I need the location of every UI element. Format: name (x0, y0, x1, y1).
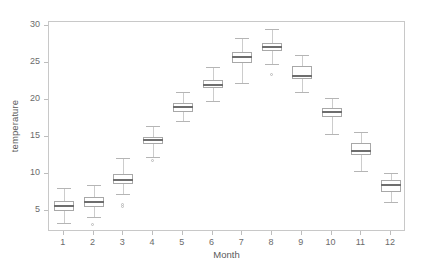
plot-area (49, 22, 404, 230)
plot-frame (48, 21, 405, 231)
y-tick-label: 20 (24, 93, 40, 103)
x-tick-label: 1 (54, 237, 72, 247)
x-tick-label: 12 (381, 237, 399, 247)
figure-caption-area (0, 262, 423, 268)
x-tick-label: 11 (351, 237, 369, 247)
x-tick-mark (271, 231, 272, 235)
x-tick-mark (93, 231, 94, 235)
y-tick-label: 5 (24, 204, 40, 214)
boxplot-upper-cap (384, 173, 398, 174)
y-tick-label: 15 (24, 130, 40, 140)
x-tick-mark (122, 231, 123, 235)
x-tick-label: 2 (84, 237, 102, 247)
x-tick-label: 9 (292, 237, 310, 247)
x-tick-label: 10 (322, 237, 340, 247)
x-tick-mark (63, 231, 64, 235)
x-tick-mark (212, 231, 213, 235)
y-tick-label: 30 (24, 19, 40, 29)
y-axis-label-container: temperature (9, 21, 23, 231)
x-tick-label: 3 (113, 237, 131, 247)
boxplot-lower-cap (384, 202, 398, 203)
x-tick-mark (331, 231, 332, 235)
boxplot-lower-whisker (391, 192, 392, 202)
x-tick-label: 6 (203, 237, 221, 247)
boxplot-median-line (381, 184, 401, 186)
x-axis-label: Month (48, 249, 405, 260)
x-tick-mark (301, 231, 302, 235)
x-tick-label: 8 (262, 237, 280, 247)
x-tick-mark (152, 231, 153, 235)
x-tick-mark (241, 231, 242, 235)
y-tick-label: 25 (24, 56, 40, 66)
x-tick-label: 7 (232, 237, 250, 247)
boxplot-upper-whisker (391, 173, 392, 180)
x-tick-label: 4 (143, 237, 161, 247)
y-axis-label: temperature (9, 21, 23, 231)
y-tick-label: 10 (24, 167, 40, 177)
boxplot-group (49, 22, 406, 230)
x-tick-mark (360, 231, 361, 235)
boxplot-figure: temperature 51015202530 123456789101112 … (0, 0, 423, 268)
x-tick-mark (182, 231, 183, 235)
x-tick-mark (390, 231, 391, 235)
x-tick-label: 5 (173, 237, 191, 247)
